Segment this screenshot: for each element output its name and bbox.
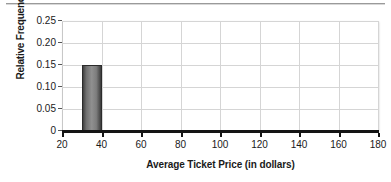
x-axis-tick-labels: 20406080100120140160180 xyxy=(0,139,391,153)
y-tick-mark xyxy=(58,86,62,87)
y-tick-label: 0.15 xyxy=(20,60,56,70)
y-tick-label: 0.10 xyxy=(20,82,56,92)
x-tick-mark xyxy=(299,133,301,137)
x-gridline xyxy=(141,21,142,131)
x-gridline xyxy=(378,21,379,131)
x-axis-title: Average Ticket Price (in dollars) xyxy=(62,159,379,170)
x-tick-mark xyxy=(62,133,64,137)
y-tick-label: 0 xyxy=(20,126,56,136)
x-gridline xyxy=(299,21,300,131)
y-tick-mark xyxy=(58,130,62,131)
y-tick-label: 0.05 xyxy=(20,104,56,114)
x-tick-mark xyxy=(378,133,380,137)
x-tick-mark xyxy=(260,133,262,137)
x-tick-mark xyxy=(220,133,222,137)
x-gridline xyxy=(181,21,182,131)
x-tick-label: 120 xyxy=(240,139,280,151)
y-tick-label: 0.25 xyxy=(20,16,56,26)
x-tick-mark xyxy=(181,133,183,137)
x-tick-label: 80 xyxy=(161,139,201,151)
x-tick-label: 180 xyxy=(358,139,391,151)
x-tick-label: 100 xyxy=(200,139,240,151)
x-gridline xyxy=(339,21,340,131)
x-gridline xyxy=(220,21,221,131)
y-tick-mark xyxy=(58,64,62,65)
x-tick-mark xyxy=(141,133,143,137)
histogram-figure: Relative Frequency 00.050.100.150.200.25… xyxy=(0,0,391,182)
y-tick-mark xyxy=(58,20,62,21)
y-axis-tick-labels: 00.050.100.150.200.25 xyxy=(20,21,56,131)
x-tick-mark xyxy=(102,133,104,137)
x-tick-label: 140 xyxy=(279,139,319,151)
plot-left-edge xyxy=(62,21,63,131)
x-gridline xyxy=(260,21,261,131)
x-tick-label: 60 xyxy=(121,139,161,151)
y-tick-mark xyxy=(58,42,62,43)
y-tick-label: 0.20 xyxy=(20,38,56,48)
plot-area xyxy=(62,21,378,131)
x-tick-label: 40 xyxy=(82,139,122,151)
x-tick-label: 20 xyxy=(42,139,82,151)
x-tick-label: 160 xyxy=(319,139,359,151)
top-divider-rule xyxy=(6,3,385,5)
x-tick-mark xyxy=(339,133,341,137)
x-gridline xyxy=(102,21,103,131)
histogram-bar xyxy=(82,65,102,131)
y-tick-mark xyxy=(58,108,62,109)
